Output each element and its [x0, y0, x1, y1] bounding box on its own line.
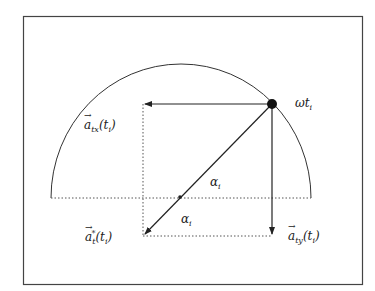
diagram-canvas: [0, 0, 375, 291]
crossing-dot: [178, 195, 182, 199]
label-alpha-upper: αi: [210, 176, 221, 191]
label-omega-t: ωti: [295, 97, 312, 112]
arrow-at-star: [145, 104, 272, 234]
point-marker: [267, 99, 277, 109]
label-aty: aty(ti): [288, 230, 320, 245]
label-alpha-lower: αi: [181, 213, 192, 228]
label-at-star: at*(ti): [85, 230, 112, 246]
label-atx: atx(ti): [84, 119, 116, 134]
